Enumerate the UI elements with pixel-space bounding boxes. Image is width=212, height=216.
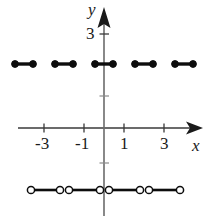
closed-endpoint bbox=[110, 61, 117, 68]
closed-endpoint bbox=[12, 61, 19, 68]
x-tick-label--3: -3 bbox=[35, 135, 49, 152]
open-endpoint bbox=[176, 186, 183, 193]
lower-segment-3 bbox=[105, 186, 143, 193]
y-axis-label: y bbox=[88, 1, 96, 18]
open-endpoint bbox=[56, 186, 63, 193]
x-tick-label-1: 1 bbox=[120, 135, 129, 152]
closed-endpoint bbox=[132, 61, 139, 68]
lower-segment-group bbox=[27, 186, 183, 193]
upper-segment-4 bbox=[132, 61, 157, 68]
open-endpoint bbox=[65, 186, 72, 193]
open-endpoint bbox=[96, 186, 103, 193]
closed-endpoint bbox=[92, 61, 99, 68]
open-endpoint bbox=[105, 186, 112, 193]
upper-segment-1 bbox=[12, 61, 37, 68]
lower-segment-4 bbox=[145, 186, 183, 193]
lower-segment-1 bbox=[27, 186, 63, 193]
lower-segment-2 bbox=[65, 186, 103, 193]
upper-segment-5 bbox=[172, 61, 197, 68]
graph-figure: -3 -1 1 3 3 x y bbox=[0, 0, 212, 216]
open-endpoint bbox=[136, 186, 143, 193]
open-endpoint bbox=[145, 186, 152, 193]
closed-endpoint bbox=[30, 61, 37, 68]
x-tick-label-3: 3 bbox=[160, 135, 169, 152]
closed-endpoint bbox=[172, 61, 179, 68]
coordinate-plot bbox=[0, 0, 212, 216]
open-endpoint bbox=[27, 186, 34, 193]
closed-endpoint bbox=[150, 61, 157, 68]
x-axis-label: x bbox=[192, 137, 200, 154]
closed-endpoint bbox=[70, 61, 77, 68]
closed-endpoint bbox=[190, 61, 197, 68]
upper-segment-2 bbox=[52, 61, 77, 68]
x-tick-label--1: -1 bbox=[75, 135, 89, 152]
closed-endpoint bbox=[52, 61, 59, 68]
y-tick-label-3: 3 bbox=[86, 25, 95, 42]
